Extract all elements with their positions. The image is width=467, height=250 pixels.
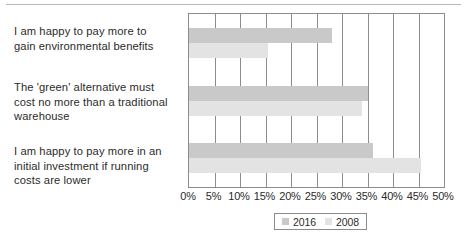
category-label-line: initial investment if running xyxy=(14,159,186,174)
legend-item-2008: 2008 xyxy=(325,216,359,228)
category-label-line: warehouse xyxy=(14,109,186,124)
chart-legend: 2016 2008 xyxy=(274,213,367,230)
plot-area xyxy=(188,13,445,188)
category-label-line: The 'green' alternative must xyxy=(14,80,186,95)
bar-2008-category-2 xyxy=(189,158,421,173)
legend-label-2016: 2016 xyxy=(293,216,316,228)
legend-item-2016: 2016 xyxy=(282,216,316,228)
x-axis-tick-labels: 0%5%10%15%20%25%30%35%40%45%50% xyxy=(188,190,443,204)
category-label-2: I am happy to pay more in aninitial inve… xyxy=(14,144,186,188)
category-label-line: I am happy to pay more to xyxy=(14,24,186,39)
bar-2008-category-0 xyxy=(189,43,268,58)
chart-figure: I am happy to pay more togain environmen… xyxy=(0,0,467,250)
bar-2008-category-1 xyxy=(189,101,362,116)
category-label-line: gain environmental benefits xyxy=(14,39,186,54)
bar-2016-category-2 xyxy=(189,143,373,158)
category-label-line: costs are lower xyxy=(14,173,186,188)
bar-2016-category-1 xyxy=(189,86,368,101)
category-label-line: cost no more than a traditional xyxy=(14,95,186,110)
header-rule xyxy=(6,4,461,5)
legend-label-2008: 2008 xyxy=(336,216,359,228)
category-label-1: The 'green' alternative mustcost no more… xyxy=(14,80,186,124)
legend-swatch-2008 xyxy=(325,218,332,225)
bar-2016-category-0 xyxy=(189,28,332,43)
x-tick-50%: 50% xyxy=(423,190,463,202)
plot-inner xyxy=(189,14,444,187)
category-label-column: I am happy to pay more togain environmen… xyxy=(14,14,186,186)
category-label-line: I am happy to pay more in an xyxy=(14,144,186,159)
category-label-0: I am happy to pay more togain environmen… xyxy=(14,24,186,53)
legend-swatch-2016 xyxy=(282,218,289,225)
